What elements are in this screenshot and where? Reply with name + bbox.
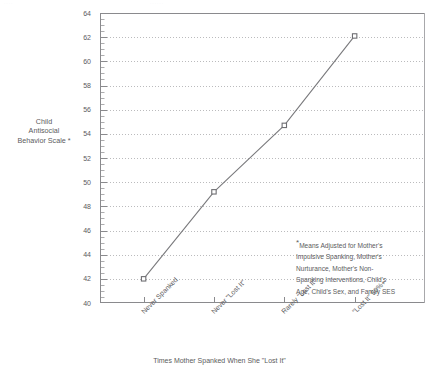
y-tick-label-46: 46 <box>67 227 91 234</box>
x-axis-title: Times Mother Spanked When She "Lost It" <box>0 357 439 364</box>
annotation-line-1: *Means Adjusted for Mother's <box>296 240 436 251</box>
y-tick-label-62: 62 <box>67 34 91 41</box>
y-tick-label-40: 40 <box>67 300 91 307</box>
scan-artifact-top-right: ······ <box>150 1 164 6</box>
y-tick-label-50: 50 <box>67 179 91 186</box>
y-tick-label-60: 60 <box>67 58 91 65</box>
plot-area: *Means Adjusted for Mother's Impulsive S… <box>100 13 425 303</box>
chart-figure: ···· ······ Child Antisocial Behavior Sc… <box>0 0 439 372</box>
y-tick-label-42: 42 <box>67 275 91 282</box>
y-tick-label-64: 64 <box>67 10 91 17</box>
chart-annotation: *Means Adjusted for Mother's Impulsive S… <box>296 240 436 297</box>
y-major-ticks-group <box>100 14 107 304</box>
data-point-marker <box>212 190 216 194</box>
y-tick-label-56: 56 <box>67 106 91 113</box>
scan-artifact-top-left: ···· <box>4 1 13 6</box>
annotation-line-2: Impulsive Spanking, Mother's <box>296 251 436 262</box>
y-tick-label-54: 54 <box>67 130 91 137</box>
y-tick-label-58: 58 <box>67 82 91 89</box>
data-point-marker <box>352 34 356 38</box>
data-point-marker <box>282 123 286 127</box>
y-tick-label-44: 44 <box>67 251 91 258</box>
y-tick-label-48: 48 <box>67 203 91 210</box>
annotation-line-3: Nurturance, Mother's Non- <box>296 263 436 274</box>
data-point-marker <box>141 277 145 281</box>
annotation-line-1-text: Means Adjusted for Mother's <box>299 242 382 249</box>
y-axis-title-line-1: Child <box>4 117 84 126</box>
annotation-line-4: Spanking Interventions, Child's <box>296 274 436 285</box>
y-tick-label-52: 52 <box>67 155 91 162</box>
